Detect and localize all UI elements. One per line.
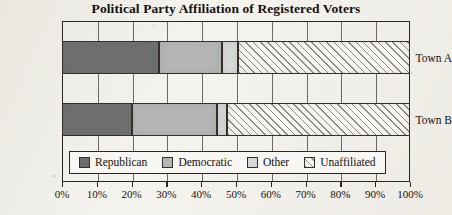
x-tick-label-80: 80% <box>330 188 350 200</box>
chart-legend: RepublicanDemocraticOtherUnaffiliated <box>69 151 386 174</box>
x-tick-90 <box>375 182 376 187</box>
bar-segment-town-b-democratic <box>132 103 217 136</box>
x-tick-label-100: 100% <box>397 188 423 200</box>
x-tick-30 <box>166 182 167 187</box>
legend-swatch-unaffiliated-icon <box>304 157 315 168</box>
x-axis-tick-labels: 0%10%20%30%40%50%60%70%80%90%100% <box>62 188 410 204</box>
bar-row-town-a <box>62 41 410 74</box>
legend-swatch-republican-icon <box>79 157 90 168</box>
bar-segment-town-b-other <box>217 103 227 136</box>
x-tick-label-10: 10% <box>87 188 107 200</box>
x-tick-10 <box>97 182 98 187</box>
x-tick-0 <box>62 182 63 187</box>
legend-label-unaffiliated: Unaffiliated <box>320 157 375 169</box>
legend-swatch-democratic-icon <box>162 157 173 168</box>
x-tick-100 <box>410 182 411 187</box>
legend-item-unaffiliated[interactable]: Unaffiliated <box>304 157 375 169</box>
legend-label-republican: Republican <box>95 157 147 169</box>
bar-segment-town-a-unaffiliated <box>238 41 410 74</box>
x-tick-80 <box>340 182 341 187</box>
x-tick-label-30: 30% <box>156 188 176 200</box>
bar-segment-town-a-republican <box>62 41 159 74</box>
legend-item-other[interactable]: Other <box>247 157 289 169</box>
legend-swatch-other-icon <box>247 157 258 168</box>
legend-item-democratic[interactable]: Democratic <box>162 157 232 169</box>
bar-segment-town-a-other <box>222 41 238 74</box>
legend-label-democratic: Democratic <box>178 157 232 169</box>
bar-row-town-b <box>62 103 410 136</box>
x-tick-70 <box>306 182 307 187</box>
bar-segment-town-a-democratic <box>159 41 222 74</box>
x-tick-label-20: 20% <box>122 188 142 200</box>
x-tick-label-60: 60% <box>261 188 281 200</box>
x-tick-label-40: 40% <box>191 188 211 200</box>
stacked-bar-chart: Political Party Affiliation of Registere… <box>0 0 452 215</box>
chart-title: Political Party Affiliation of Registere… <box>0 1 452 17</box>
x-tick-60 <box>271 182 272 187</box>
bar-segment-town-b-unaffiliated <box>227 103 410 136</box>
legend-label-other: Other <box>263 157 289 169</box>
x-tick-label-70: 70% <box>296 188 316 200</box>
x-tick-label-0: 0% <box>55 188 70 200</box>
bar-segment-town-b-republican <box>62 103 132 136</box>
x-tick-20 <box>132 182 133 187</box>
x-tick-50 <box>236 182 237 187</box>
x-tick-40 <box>201 182 202 187</box>
x-tick-label-90: 90% <box>365 188 385 200</box>
legend-item-republican[interactable]: Republican <box>79 157 147 169</box>
x-tick-label-50: 50% <box>226 188 246 200</box>
